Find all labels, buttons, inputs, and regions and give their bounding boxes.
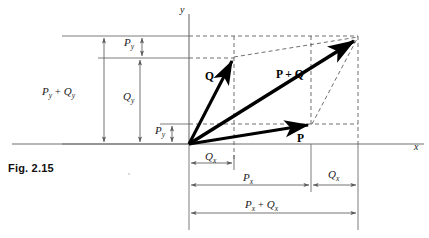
vector-label-PplusQ: P + Q <box>276 68 304 80</box>
vector-label-Q: Q <box>205 70 214 82</box>
dim-label-Py-bottom: Py <box>154 124 166 139</box>
vectors-group: Q P P + Q <box>189 41 354 144</box>
dim-label-Qy-Q: Q <box>123 90 131 102</box>
dim-label-Px-plus-Qx-plus: + <box>258 199 264 210</box>
dim-label-Px-plus-Qx: Px+Qx <box>244 198 279 213</box>
dim-label-Py-plus-Qy-sub2: y <box>71 91 76 100</box>
dim-label-Py-plus-Qy-sub1: y <box>48 91 53 100</box>
vertical-dimension-labels: Py+Qy Qy Py Py <box>41 36 166 139</box>
dim-label-Px-sub: x <box>249 177 254 186</box>
dim-label-Px-plus-Qx-Q: Q <box>267 198 275 210</box>
dim-label-Qx-right-Q: Q <box>328 168 336 180</box>
horizontal-dimension-labels: Qx Px Qx Px+Qx <box>205 150 340 213</box>
axes-group: y x <box>12 4 424 152</box>
dim-label-Py-top-sub: y <box>130 42 135 51</box>
dim-label-Qy-sub: y <box>130 96 135 105</box>
x-axis-label: x <box>413 141 419 152</box>
dim-label-Qx-left: Qx <box>205 150 217 165</box>
dim-label-Px-plus-Qx-sub2: x <box>274 204 279 213</box>
dim-label-Qx-right-sub: x <box>335 174 340 183</box>
dim-label-Px-plus-Qx-sub1: x <box>251 204 256 213</box>
dashed-parallelogram-upper <box>234 37 358 57</box>
vector-addition-diagram: y x <box>0 0 429 238</box>
dim-label-Py-top: Py <box>123 36 135 51</box>
vector-label-P: P <box>297 132 304 144</box>
dim-label-Qx-left-sub: x <box>212 156 217 165</box>
dim-label-Qx-left-Q: Q <box>205 150 213 162</box>
dim-label-Qy: Qy <box>123 90 135 105</box>
y-axis-label: y <box>179 4 185 15</box>
scan-speck <box>128 173 129 174</box>
vertical-dimensions-group <box>104 38 172 142</box>
dashed-parallelogram-lower <box>312 37 358 124</box>
dim-label-Py-bottom-sub: y <box>161 130 166 139</box>
dim-label-Py-plus-Qy-plus: + <box>55 86 61 97</box>
dim-label-Py-plus-Qy: Py+Qy <box>41 85 76 100</box>
dim-label-Qx-right: Qx <box>328 168 340 183</box>
dim-label-Px: Px <box>242 171 254 186</box>
vector-PplusQ-arrow <box>189 41 354 144</box>
dim-label-Py-plus-Qy-Q: Q <box>64 85 72 97</box>
figure-container: Fig. 2.15 y x <box>0 0 429 238</box>
